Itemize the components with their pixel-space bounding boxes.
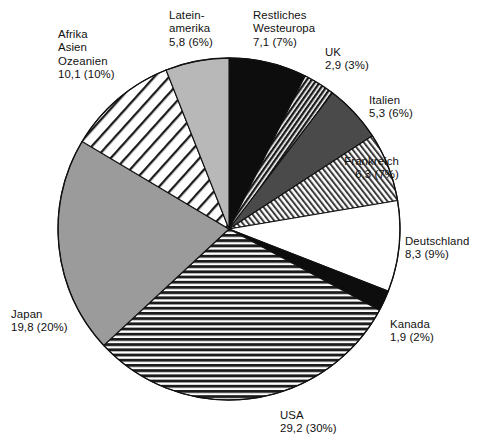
label-line-1: Deutschland [405, 235, 469, 248]
slice-label-uk: UK 2,9 (3%) [325, 46, 369, 73]
label-value-percent: 1,9 (2%) [390, 331, 434, 344]
label-value-percent: 2,9 (3%) [325, 59, 369, 72]
label-value-percent: 6,3 (7%) [344, 168, 399, 181]
label-line-1: Japan [11, 308, 68, 321]
label-value-percent: 29,2 (30%) [280, 422, 337, 435]
label-line-1: Latein- [169, 9, 213, 22]
label-line-3: Ozeanien [58, 55, 115, 68]
label-line-1: USA [280, 409, 337, 422]
pie-slice-layer [58, 58, 400, 400]
label-line-2: Westeuropa [253, 22, 315, 35]
label-value-percent: 5,3 (6%) [369, 107, 413, 120]
pie-chart-figure: Afrika Asien Ozeanien 10,1 (10%) Latein-… [0, 0, 480, 448]
slice-label-frankreich: Frankreich 6,3 (7%) [344, 155, 399, 182]
slice-label-italien: Italien 5,3 (6%) [369, 94, 413, 121]
slice-label-kanada: Kanada 1,9 (2%) [390, 318, 434, 345]
slice-label-japan: Japan 19,8 (20%) [11, 308, 68, 335]
slice-label-afrika-asien-ozeanien: Afrika Asien Ozeanien 10,1 (10%) [58, 28, 115, 82]
label-value-percent: 8,3 (9%) [405, 248, 469, 261]
slice-label-lateinamerika: Latein- amerika 5,8 (6%) [169, 9, 213, 49]
label-value-percent: 10,1 (10%) [58, 68, 115, 81]
label-value-percent: 7,1 (7%) [253, 36, 315, 49]
label-line-1: Restliches [253, 9, 315, 22]
label-line-1: UK [325, 46, 369, 59]
slice-label-deutschland: Deutschland 8,3 (9%) [405, 235, 469, 262]
label-line-1: Frankreich [344, 155, 399, 168]
slice-label-restliches-westeuropa: Restliches Westeuropa 7,1 (7%) [253, 9, 315, 49]
label-line-2: amerika [169, 22, 213, 35]
label-line-1: Italien [369, 94, 413, 107]
slice-label-usa: USA 29,2 (30%) [280, 409, 337, 436]
label-line-1: Afrika [58, 28, 115, 41]
label-line-2: Asien [58, 41, 115, 54]
label-value-percent: 19,8 (20%) [11, 321, 68, 334]
label-value-percent: 5,8 (6%) [169, 36, 213, 49]
label-line-1: Kanada [390, 318, 434, 331]
